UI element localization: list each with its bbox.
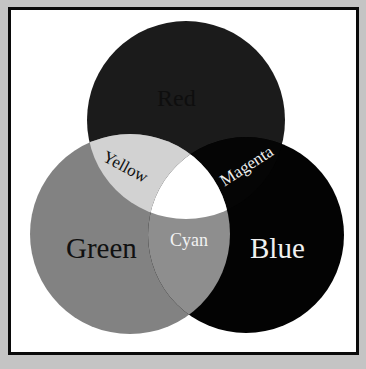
venn-diagram [0,0,366,369]
label-cyan: Cyan [170,231,208,249]
label-red: Red [157,86,196,110]
label-green: Green [66,234,137,263]
label-blue: Blue [250,234,305,263]
